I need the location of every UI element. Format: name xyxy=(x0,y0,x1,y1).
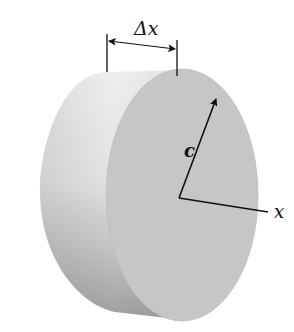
thickness-dimension: Δx xyxy=(107,17,177,76)
radius-label: c xyxy=(184,140,195,161)
cross-section-face xyxy=(106,69,258,321)
x-axis-label: x xyxy=(274,201,284,222)
dimension-arrow xyxy=(109,41,175,49)
cylinder-slice-diagram: Δx c x xyxy=(0,0,294,332)
delta-x-label: Δx xyxy=(133,17,159,39)
